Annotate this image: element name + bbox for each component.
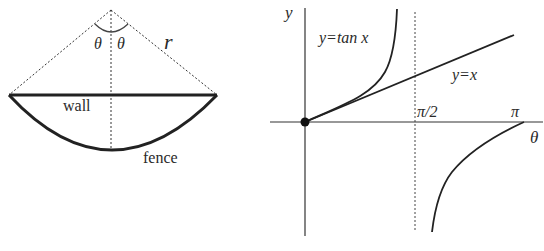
y-axis-label: y (283, 3, 293, 22)
tan-upper-branch (305, 9, 397, 122)
radius-label: r (164, 29, 173, 54)
tan-lower-branch (432, 122, 524, 232)
radius-left-line (9, 10, 111, 95)
identity-curve-label: y=x (450, 66, 477, 84)
tan-curve-label: y=tan x (317, 29, 368, 47)
theta-right-label: θ (117, 35, 125, 52)
fence-arc (9, 95, 217, 150)
x-axis-label: θ (530, 128, 538, 147)
theta-left-label: θ (94, 35, 102, 52)
half-pi-tick-label: π/2 (417, 103, 437, 120)
pi-tick-label: π (511, 103, 520, 120)
fence-label: fence (143, 149, 178, 166)
tan-graph: y θ y=tan x y=x π/2 π (270, 3, 543, 236)
figure: θ θ r wall fence y θ y=tan x y=x π/2 π (0, 0, 544, 251)
sector-diagram: θ θ r wall fence (9, 10, 217, 166)
origin-point (301, 118, 310, 127)
wall-label: wall (63, 97, 91, 114)
